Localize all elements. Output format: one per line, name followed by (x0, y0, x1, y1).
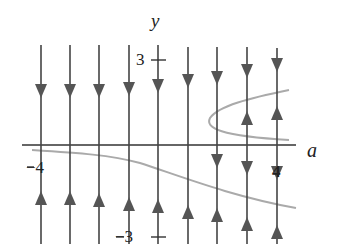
arrow-up-icon (64, 191, 76, 205)
arrow-up-icon (93, 193, 105, 207)
arrow-down-icon (241, 64, 253, 78)
arrow-down-icon (93, 84, 105, 98)
tick-label-y-pos: 3 (136, 51, 145, 68)
arrow-up-icon (271, 106, 283, 120)
arrow-down-icon (35, 84, 47, 98)
arrow-up-icon (241, 217, 253, 231)
arrow-down-icon (211, 154, 223, 168)
arrow-up-icon (35, 191, 47, 205)
tick-label-a-neg: −4 (26, 159, 44, 176)
arrow-up-icon (123, 197, 135, 211)
arrow-down-icon (211, 71, 223, 85)
flow-arrows (35, 58, 283, 239)
arrow-down-icon (123, 82, 135, 96)
y-axis-label: y (151, 11, 159, 30)
arrow-down-icon (241, 161, 253, 175)
bifurcation-diagram (0, 0, 342, 252)
arrow-up-icon (182, 205, 194, 219)
tick-label-y-neg: −3 (115, 228, 133, 245)
arrow-down-icon (182, 74, 194, 88)
arrow-down-icon (64, 84, 76, 98)
arrow-up-icon (241, 111, 253, 125)
arrow-up-icon (152, 199, 164, 213)
arrow-down-icon (271, 58, 283, 72)
arrow-down-icon (152, 79, 164, 93)
arrow-up-icon (211, 208, 223, 222)
tick-label-a-pos: 4 (272, 163, 281, 180)
arrow-up-icon (271, 225, 283, 239)
a-axis-label: a (307, 140, 317, 160)
